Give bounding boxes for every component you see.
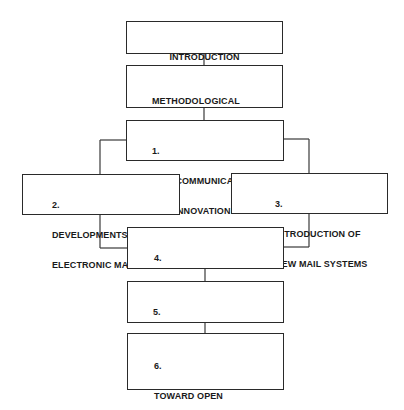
flowchart: INTRODUCTION METHODOLOGICAL ASPECTS 1. T… — [0, 0, 404, 410]
box-introduction-title: INTRODUCTION — [127, 52, 282, 62]
box-chapter-2: 2. DEVELOPMENTS IN ELECTRONIC MAIL — [22, 174, 180, 215]
box-chapter-3-number: 3. — [275, 199, 367, 209]
box-chapter-3: 3. INTRODUCTION OF NEW MAIL SYSTEMS — [231, 173, 388, 214]
box-chapter-3-line-1: INTRODUCTION OF — [275, 229, 367, 239]
box-chapter-3-line-2: NEW MAIL SYSTEMS — [275, 259, 367, 269]
box-chapter-5: 5. REGULATION AND INNOVATION POLICY — [127, 281, 284, 323]
box-chapter-4: 4. THE IMPACT OF STANDARDS — [127, 227, 284, 269]
box-introduction: INTRODUCTION — [126, 21, 283, 54]
box-methodological-line-1: METHODOLOGICAL — [152, 96, 240, 106]
box-chapter-1: 1. TELECOMMUNICATIONS AND INNOVATION — [126, 120, 284, 161]
box-chapter-6-line-1: TOWARD OPEN — [154, 391, 223, 401]
box-chapter-2-number: 2. — [52, 200, 140, 210]
box-chapter-4-number: 4. — [154, 253, 225, 263]
box-chapter-5-number: 5. — [153, 307, 246, 317]
box-chapter-1-number: 1. — [152, 146, 261, 156]
box-chapter-6-number: 6. — [154, 361, 223, 371]
box-methodological-aspects: METHODOLOGICAL ASPECTS — [126, 65, 283, 108]
box-chapter-6: 6. TOWARD OPEN INFORMATION NETWORKS — [127, 333, 284, 390]
